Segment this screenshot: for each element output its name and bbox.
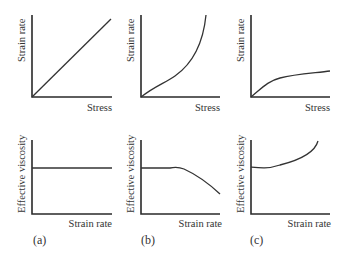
x-axis-label: Stress	[305, 102, 330, 113]
y-axis-label: Strain rate	[125, 18, 136, 62]
curve-increasing	[251, 141, 318, 168]
curve-shear-thinning	[251, 71, 330, 97]
axes	[251, 140, 330, 214]
panel-b-top-plot: Stress Strain rate	[125, 15, 220, 113]
axes	[251, 15, 330, 97]
x-axis-label: Stress	[195, 102, 220, 113]
panel-a-top-plot: Stress Strain rate	[16, 15, 112, 113]
y-axis-label: Strain rate	[16, 18, 27, 62]
panel-c-bottom-plot: Strain rate Effective viscosity (c)	[235, 134, 331, 247]
panel-label: (c)	[250, 233, 263, 247]
panel-a-bottom-plot: Strain rate Effective viscosity (a)	[16, 134, 112, 247]
panel-c-top-plot: Stress Strain rate	[235, 15, 330, 113]
axes	[32, 140, 112, 214]
panel-b-bottom-plot: Strain rate Effective viscosity (b)	[125, 134, 222, 247]
y-axis-label: Strain rate	[235, 18, 246, 62]
axes	[141, 140, 220, 214]
axes	[141, 15, 220, 97]
x-axis-label: Stress	[87, 102, 112, 113]
x-axis-label: Strain rate	[179, 218, 223, 229]
x-axis-label: Strain rate	[69, 218, 113, 229]
curve-linear	[32, 19, 111, 97]
x-axis-label: Strain rate	[288, 218, 332, 229]
y-axis-label: Effective viscosity	[125, 134, 136, 213]
curve-decreasing	[141, 167, 220, 194]
y-axis-label: Effective viscosity	[16, 134, 27, 213]
curve-shear-thickening	[141, 15, 206, 97]
rheology-diagram: Stress Strain rate Stress Strain rate St…	[0, 0, 343, 255]
y-axis-label: Effective viscosity	[235, 134, 246, 213]
panel-label: (a)	[33, 233, 46, 247]
panel-label: (b)	[141, 233, 155, 247]
